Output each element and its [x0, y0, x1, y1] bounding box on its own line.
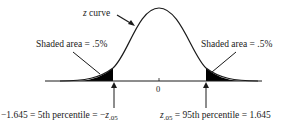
left-percentile-label: −1.645 = 5th percentile = −z.05: [1, 111, 118, 122]
left-area-pointer: [73, 52, 100, 74]
left-percentile-sub: .05: [109, 114, 118, 122]
right-area-pointer: [212, 52, 236, 72]
curve-pointer-arrowhead: [128, 20, 135, 26]
right-percentile-label: z.05 = 95th percentile = 1.645: [160, 111, 271, 122]
right-area-label: Shaded area = .5%: [201, 40, 272, 50]
right-percentile-text: = 95th percentile = 1.645: [172, 110, 270, 120]
left-arrowhead-icon: [111, 82, 117, 88]
center-tick-label: 0: [156, 85, 160, 94]
left-percentile-text: −1.645 = 5th percentile = −: [1, 110, 105, 120]
curve-label-text: curve: [87, 8, 110, 18]
curve-label: z curve: [83, 9, 110, 19]
left-area-label: Shaded area = .5%: [36, 40, 107, 50]
right-arrowhead-icon: [203, 82, 209, 88]
